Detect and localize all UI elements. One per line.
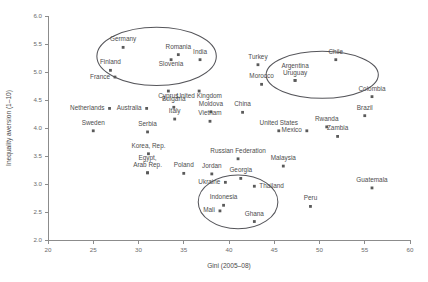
data-point[interactable]: Ghana <box>245 210 265 223</box>
point-label: Chile <box>329 48 344 55</box>
point-label: Uruguay <box>283 69 308 77</box>
data-point[interactable]: India <box>193 48 207 61</box>
data-point[interactable]: Arab Rep. <box>133 161 162 174</box>
point-label: Finland <box>100 58 121 65</box>
y-tick-label: 3.0 <box>33 180 42 187</box>
point-marker[interactable] <box>122 46 125 49</box>
point-marker[interactable] <box>257 63 260 66</box>
point-marker[interactable] <box>146 131 149 134</box>
data-point[interactable]: Georgia <box>229 166 252 179</box>
point-label: Korea, Rep. <box>131 142 165 150</box>
data-point[interactable]: Mexico <box>282 126 309 133</box>
x-tick-label: 60 <box>407 246 414 253</box>
point-marker[interactable] <box>309 205 312 208</box>
data-point[interactable]: Russian Federation <box>210 147 266 160</box>
point-marker[interactable] <box>253 220 256 223</box>
data-point[interactable]: Jordan <box>202 162 222 175</box>
point-marker[interactable] <box>108 107 111 110</box>
data-point[interactable]: France <box>90 73 116 80</box>
data-point[interactable]: China <box>234 100 251 113</box>
data-point[interactable]: Poland <box>174 161 194 174</box>
point-marker[interactable] <box>209 120 212 123</box>
x-axis-title: Gini (2005–08) <box>207 262 251 270</box>
data-point[interactable]: Mali <box>203 206 221 213</box>
scatter-chart: 2.02.53.03.54.04.55.05.56.0 202530354045… <box>0 0 428 282</box>
point-marker[interactable] <box>294 79 297 82</box>
data-point[interactable]: Guatemala <box>356 176 388 189</box>
point-label: Peru <box>304 194 318 201</box>
point-label: Netherlands <box>70 104 104 111</box>
point-marker[interactable] <box>224 181 227 184</box>
data-point[interactable]: Ukraine <box>198 178 226 185</box>
point-marker[interactable] <box>114 76 117 79</box>
data-point[interactable]: Malaysia <box>271 154 297 167</box>
data-point[interactable]: Romania <box>166 43 192 56</box>
point-marker[interactable] <box>199 58 202 61</box>
point-label: Turkey <box>248 53 268 61</box>
x-tick-label: 45 <box>271 246 278 253</box>
point-marker[interactable] <box>253 185 256 188</box>
point-marker[interactable] <box>92 129 95 132</box>
y-tick-label: 2.5 <box>33 208 42 215</box>
point-label: Guatemala <box>356 176 388 183</box>
point-marker[interactable] <box>239 177 242 180</box>
x-tick-label: 35 <box>180 246 187 253</box>
data-point[interactable]: Zambia <box>327 124 349 137</box>
point-marker[interactable] <box>210 173 213 176</box>
point-marker[interactable] <box>177 53 180 56</box>
point-label: Rwanda <box>315 115 339 122</box>
data-point[interactable]: Korea, Rep. <box>131 142 165 155</box>
y-tick-label: 5.0 <box>33 68 42 75</box>
point-marker[interactable] <box>260 83 263 86</box>
point-label: Bulgaria <box>162 95 186 103</box>
data-point[interactable]: Vietnam <box>198 109 221 122</box>
point-label: Brazil <box>357 104 373 111</box>
point-marker[interactable] <box>241 111 244 114</box>
y-axis-title: Inequality aversion (1–10) <box>5 90 13 166</box>
point-label: Ghana <box>245 210 265 217</box>
x-tick-label: 55 <box>361 246 368 253</box>
data-point[interactable]: Australia <box>117 104 148 111</box>
point-label: Arab Rep. <box>133 161 162 169</box>
x-tick-label: 50 <box>316 246 323 253</box>
point-marker[interactable] <box>222 204 225 207</box>
data-point[interactable]: Colombia <box>358 85 385 98</box>
y-tick-label: 4.0 <box>33 124 42 131</box>
data-point[interactable]: Brazil <box>357 104 373 117</box>
data-point[interactable]: Indonesia <box>210 193 238 206</box>
point-label: Indonesia <box>210 193 238 200</box>
point-marker[interactable] <box>182 172 185 175</box>
point-marker[interactable] <box>336 135 339 138</box>
point-marker[interactable] <box>305 129 308 132</box>
point-marker[interactable] <box>282 165 285 168</box>
point-marker[interactable] <box>371 95 374 98</box>
y-tick-label: 4.5 <box>33 96 42 103</box>
point-marker[interactable] <box>334 58 337 61</box>
data-point[interactable]: Netherlands <box>70 104 111 111</box>
point-marker[interactable] <box>277 129 280 132</box>
x-tick-label: 40 <box>226 246 233 253</box>
point-marker[interactable] <box>146 171 149 174</box>
data-point[interactable]: Serbia <box>138 120 157 133</box>
point-label: Jordan <box>202 162 222 169</box>
point-marker[interactable] <box>363 114 366 117</box>
point-marker[interactable] <box>237 157 240 160</box>
data-point[interactable]: Turkey <box>248 53 268 66</box>
point-marker[interactable] <box>173 118 176 121</box>
data-point[interactable]: Italy <box>169 107 182 120</box>
data-point[interactable]: Sweden <box>82 119 106 132</box>
point-label: Morocco <box>249 72 274 79</box>
x-tick-label: 20 <box>45 246 52 253</box>
point-marker[interactable] <box>145 107 148 110</box>
point-marker[interactable] <box>371 187 374 190</box>
data-point[interactable]: Slovenia <box>159 58 184 67</box>
point-marker[interactable] <box>109 69 112 72</box>
point-label: Serbia <box>138 120 157 127</box>
data-point[interactable]: Thailand <box>253 182 284 189</box>
data-point[interactable]: Germany <box>110 35 137 48</box>
data-point[interactable]: Peru <box>304 194 318 207</box>
point-marker[interactable] <box>219 209 222 212</box>
y-tick-label: 6.0 <box>33 12 42 19</box>
data-point[interactable]: Uruguay <box>283 69 308 82</box>
data-point[interactable]: Chile <box>329 48 344 61</box>
